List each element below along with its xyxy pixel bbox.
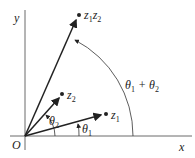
z1-label: z1 [111,109,120,124]
z1z2-label: z1z2 [84,9,101,24]
vector-z1 [25,112,108,136]
theta1-label: θ1 [82,123,92,138]
theta1-plus-theta2-label: θ1 + θ2 [125,79,159,94]
y-axis-label: y [14,12,19,24]
z2-label: z2 [67,89,76,104]
arc-theta1 [78,124,79,136]
diagram: y x O z1z2 z2 z1 θ1 + θ2 θ2 θ1 [0,0,195,158]
theta2-label: θ2 [49,115,59,130]
origin-label: O [12,139,21,151]
x-axis-label: x [179,141,184,153]
